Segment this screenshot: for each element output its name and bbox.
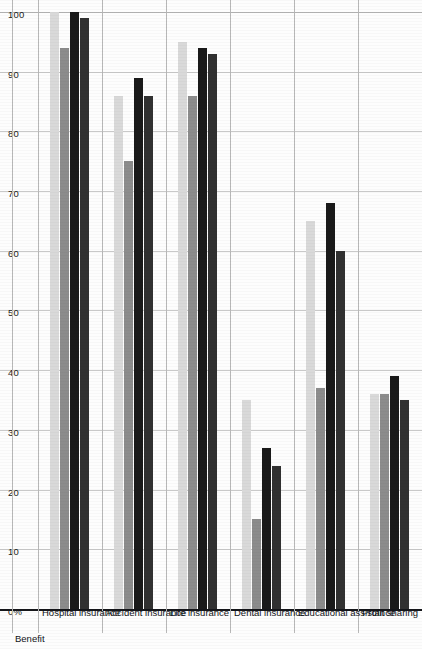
bar-dental-insurance-series-4 <box>272 466 281 609</box>
bar-educational-assistance-series-3 <box>326 203 335 609</box>
tick-label-60: 60 <box>8 248 19 259</box>
bar-life-insurance-series-3 <box>198 48 207 609</box>
bar-dental-insurance-series-2 <box>252 519 261 609</box>
tick-label-70: 70 <box>8 188 19 199</box>
tick-label-40: 40 <box>8 367 19 378</box>
bar-profit-sharing-series-1 <box>370 394 379 609</box>
bar-hospital-insurance-series-2 <box>60 48 69 609</box>
tick-label-80: 80 <box>8 128 19 139</box>
bar-chart-plot-area: 0%102030405060708090100 BenefitHospital … <box>0 0 422 649</box>
bar-accident-insurance-series-2 <box>124 161 133 609</box>
bar-dental-insurance-series-1 <box>242 400 251 609</box>
category-separator-1 <box>102 0 103 633</box>
category-separator-top <box>12 0 13 633</box>
chart-canvas: 0%102030405060708090100 BenefitHospital … <box>0 0 422 649</box>
bar-hospital-insurance-series-4 <box>80 18 89 609</box>
tick-label-10: 10 <box>8 546 19 557</box>
tick-label-90: 90 <box>8 69 19 80</box>
category-axis-header: Benefit <box>15 633 45 644</box>
category-separator-5 <box>358 0 359 633</box>
bar-accident-insurance-series-3 <box>134 78 143 609</box>
tick-label-20: 20 <box>8 487 19 498</box>
tick-label-0: 0% <box>8 606 22 617</box>
category-separator-header <box>38 0 39 633</box>
bar-educational-assistance-series-1 <box>306 221 315 609</box>
bar-educational-assistance-series-4 <box>336 251 345 609</box>
bar-accident-insurance-series-1 <box>114 96 123 609</box>
tick-label-100: 100 <box>8 9 24 20</box>
category-separator-4 <box>294 0 295 633</box>
bar-life-insurance-series-1 <box>178 42 187 609</box>
category-separator-3 <box>230 0 231 633</box>
bar-profit-sharing-series-3 <box>390 376 399 609</box>
bar-accident-insurance-series-4 <box>144 96 153 609</box>
bar-dental-insurance-series-3 <box>262 448 271 609</box>
bar-hospital-insurance-series-3 <box>70 12 79 609</box>
bar-educational-assistance-series-2 <box>316 388 325 609</box>
category-separator-2 <box>166 0 167 633</box>
bar-hospital-insurance-series-1 <box>50 12 59 609</box>
tick-label-30: 30 <box>8 427 19 438</box>
bar-life-insurance-series-4 <box>208 54 217 609</box>
bar-life-insurance-series-2 <box>188 96 197 609</box>
bar-profit-sharing-series-4 <box>400 400 409 609</box>
bar-profit-sharing-series-2 <box>380 394 389 609</box>
tick-label-50: 50 <box>8 308 19 319</box>
